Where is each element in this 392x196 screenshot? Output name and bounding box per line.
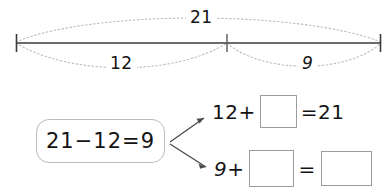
number-line-part-left-label: 12 bbox=[106, 54, 137, 73]
equation-top-sum: 21 bbox=[318, 102, 344, 122]
equation-bottom: 9 + = bbox=[214, 150, 372, 187]
equation-top-answer-box[interactable] bbox=[260, 95, 297, 128]
arrow-to-bottom-equation bbox=[170, 144, 206, 169]
equation-bottom-answer-box-1[interactable] bbox=[249, 150, 294, 187]
equation-top-plus-sign: + bbox=[238, 102, 255, 122]
fact-family-equation-text: 21−12=9 bbox=[46, 129, 155, 153]
number-line-total-label: 21 bbox=[186, 8, 217, 27]
equation-bottom-answer-box-2[interactable] bbox=[321, 151, 372, 186]
fact-family-box: 21−12=9 bbox=[36, 119, 165, 163]
equation-top-equals-sign: = bbox=[301, 102, 318, 122]
worksheet-canvas: 21 12 9 21−12=9 12 + = 21 9 + = bbox=[0, 0, 392, 196]
equation-bottom-plus-sign: + bbox=[227, 159, 244, 179]
equation-bottom-equals-sign: = bbox=[299, 159, 316, 179]
number-line-part-right-label: 9 bbox=[298, 54, 317, 73]
equation-top-addend: 12 bbox=[212, 102, 238, 122]
equation-bottom-addend: 9 bbox=[214, 159, 227, 179]
arrow-to-top-equation bbox=[170, 118, 204, 142]
equation-top: 12 + = 21 bbox=[212, 95, 344, 128]
